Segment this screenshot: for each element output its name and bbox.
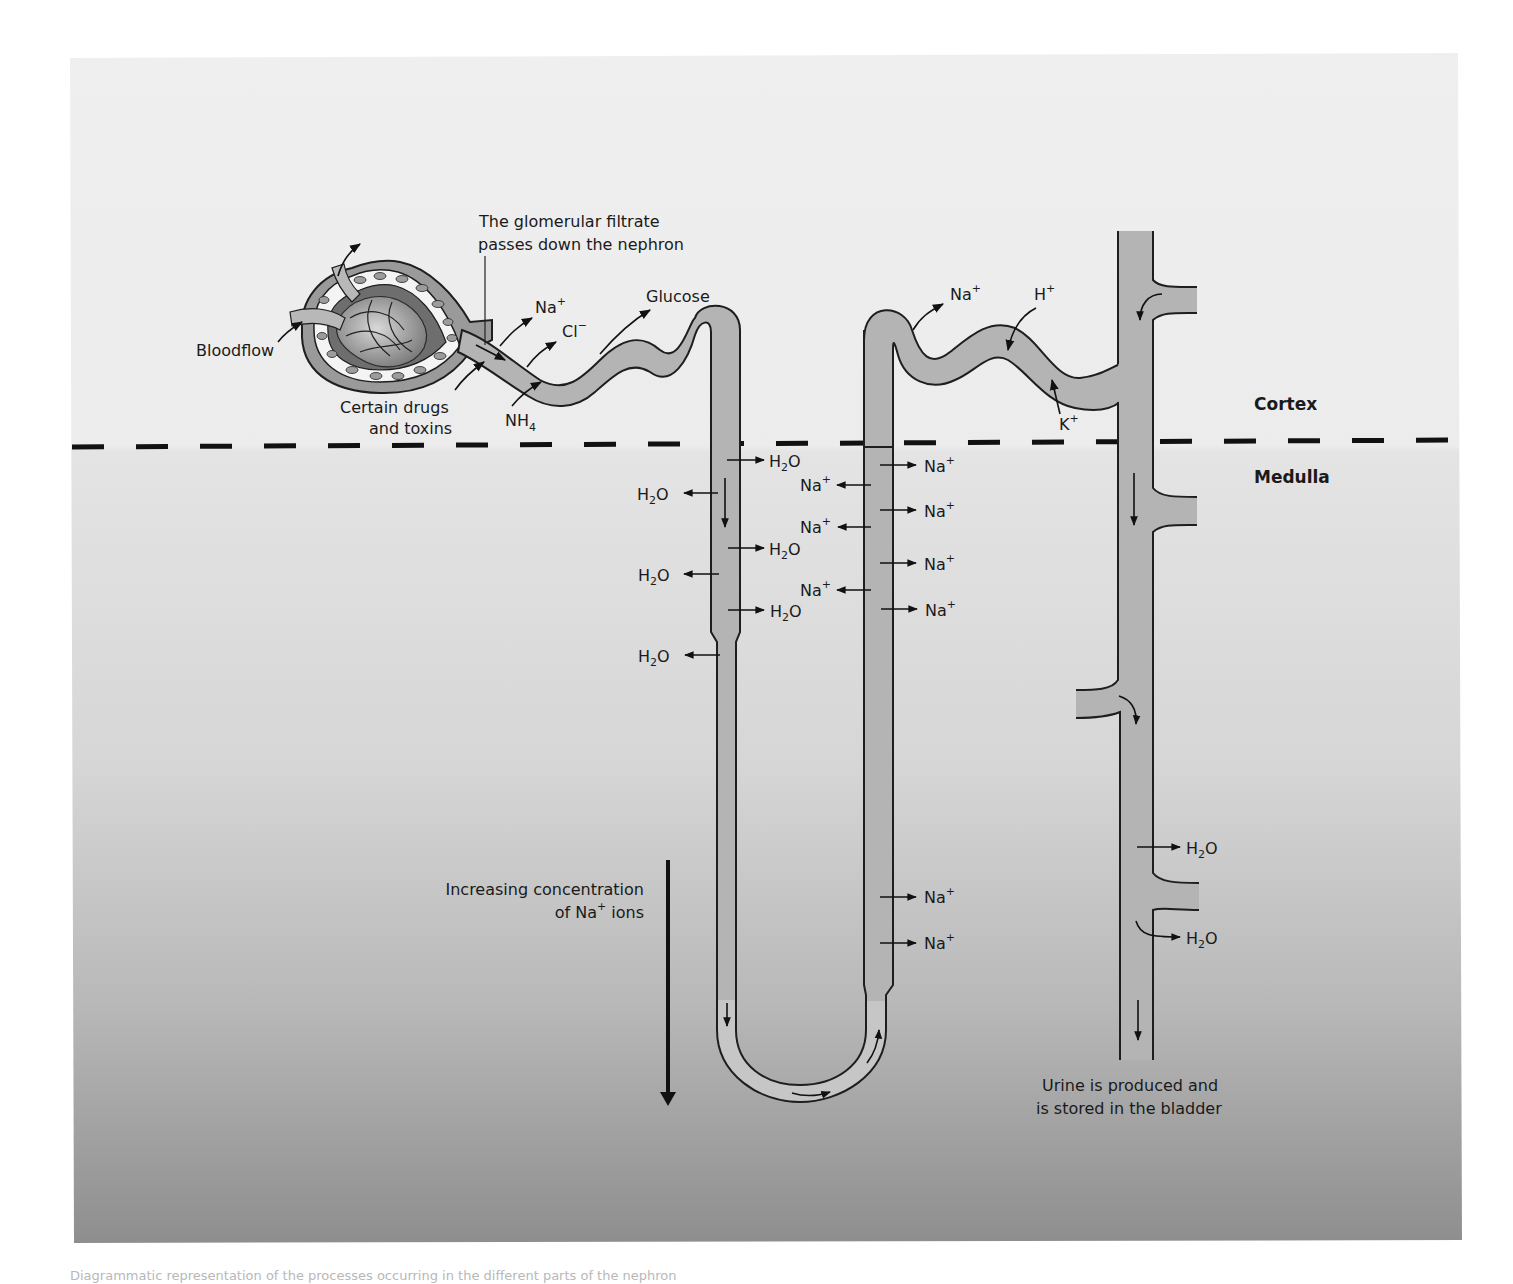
diagram-panel — [70, 53, 1462, 1243]
figure-caption: Diagrammatic representation of the proce… — [70, 1268, 677, 1283]
cortex-label: Cortex — [1254, 394, 1317, 414]
filtrate-label-line2: passes down the nephron — [478, 235, 684, 254]
filtrate-label-line1: The glomerular filtrate — [478, 212, 660, 231]
medulla-label: Medulla — [1254, 467, 1330, 487]
glucose-label: Glucose — [646, 287, 710, 306]
drugs-label-line1: Certain drugs — [340, 398, 449, 417]
gradient-label-line1: Increasing concentration — [445, 880, 644, 899]
urine-label-line2: is stored in the bladder — [1036, 1099, 1222, 1118]
urine-label-line1: Urine is produced and — [1042, 1076, 1218, 1095]
nephron-diagram: Cortex Medulla Bloodflow Certain drugs a… — [0, 0, 1513, 1284]
drugs-label-line2: and toxins — [369, 419, 452, 438]
bloodflow-label: Bloodflow — [196, 341, 274, 360]
